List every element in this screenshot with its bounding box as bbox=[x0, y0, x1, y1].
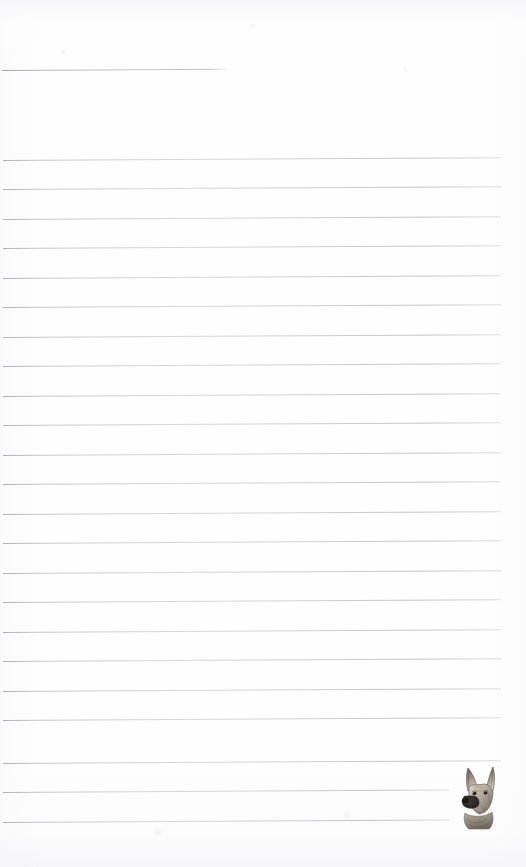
ruled-line-6 bbox=[3, 304, 501, 308]
ruled-lines-group bbox=[0, 0, 526, 867]
ruled-line-12 bbox=[3, 481, 501, 485]
ruled-line-22 bbox=[3, 789, 449, 793]
ruled-line-1 bbox=[3, 157, 501, 161]
ruled-line-14 bbox=[3, 540, 501, 544]
ruled-line-3 bbox=[3, 216, 501, 220]
ruled-line-7 bbox=[3, 334, 501, 338]
ruled-line-23 bbox=[3, 819, 449, 823]
ruled-line-18 bbox=[3, 658, 501, 662]
notepad-page bbox=[0, 0, 526, 867]
ruled-line-5 bbox=[3, 275, 501, 279]
ruled-line-17 bbox=[3, 629, 501, 633]
ruled-line-19 bbox=[3, 688, 501, 692]
ruled-line-4 bbox=[3, 245, 501, 249]
ruled-line-20 bbox=[3, 717, 501, 721]
header-rule-line bbox=[2, 69, 226, 71]
ruled-line-2 bbox=[3, 186, 501, 190]
ruled-line-10 bbox=[3, 422, 501, 426]
ruled-line-13 bbox=[3, 511, 501, 515]
ruled-line-8 bbox=[3, 363, 501, 367]
ruled-line-11 bbox=[3, 452, 501, 456]
ruled-line-21 bbox=[3, 760, 501, 764]
ruled-line-9 bbox=[3, 393, 501, 397]
ruled-line-15 bbox=[3, 570, 501, 574]
ruled-line-16 bbox=[3, 599, 501, 603]
